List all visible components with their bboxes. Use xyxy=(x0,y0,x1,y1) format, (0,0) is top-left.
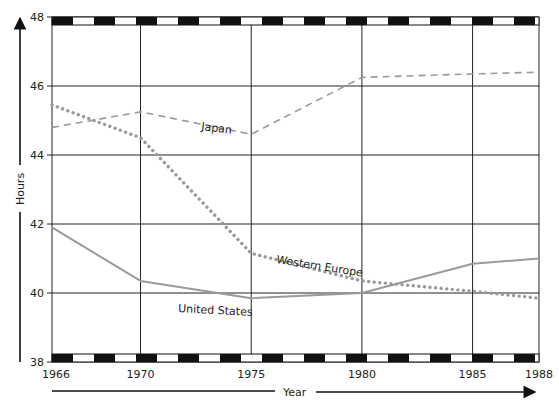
x-tick-label-1970: 1970 xyxy=(127,368,155,381)
scale-bar-top-segment-5 xyxy=(262,17,283,25)
x-axis-title: Year xyxy=(282,386,307,399)
scale-bar-bottom-segment-5 xyxy=(262,354,283,362)
scale-bar-top-segment-2 xyxy=(136,17,157,25)
scale-bar-top-segment-6 xyxy=(304,17,325,25)
scale-bar-bottom-segment-11 xyxy=(514,354,535,362)
scale-bar-bottom-segment-4 xyxy=(220,354,241,362)
y-tick-label-46: 46 xyxy=(30,80,44,93)
scale-bar-bottom-segment-1 xyxy=(94,354,115,362)
series-label-western-europe: Western Europe xyxy=(276,253,364,280)
scale-bar-top-segment-10 xyxy=(472,17,493,25)
scale-bar-top-segment-7 xyxy=(346,17,367,25)
scale-bar-bottom-segment-10 xyxy=(472,354,493,362)
y-tick-label-44: 44 xyxy=(30,149,44,162)
series-line-western-europe xyxy=(52,105,539,298)
axis-scale-bars xyxy=(52,17,539,362)
scale-bar-top xyxy=(52,17,539,25)
scale-bar-bottom xyxy=(52,354,539,362)
scale-bar-bottom-segment-2 xyxy=(136,354,157,362)
y-tick-label-48: 48 xyxy=(30,11,44,24)
scale-bar-top-segment-4 xyxy=(220,17,241,25)
series-label-japan: Japan xyxy=(200,120,233,137)
scale-bar-top-segment-8 xyxy=(388,17,409,25)
series-line-japan xyxy=(52,72,539,134)
scale-bar-bottom-segment-3 xyxy=(178,354,199,362)
grid xyxy=(52,17,539,362)
x-tick-label-1988: 1988 xyxy=(525,368,553,381)
scale-bar-bottom-segment-9 xyxy=(430,354,451,362)
y-tick-label-42: 42 xyxy=(30,218,44,231)
scale-bar-bottom-segment-0 xyxy=(52,354,73,362)
scale-bar-top-segment-1 xyxy=(94,17,115,25)
hours-worked-chart: 384042444648 196619701975198019851988 Ho… xyxy=(0,0,559,408)
scale-bar-top-segment-11 xyxy=(514,17,535,25)
scale-bar-bottom-segment-6 xyxy=(304,354,325,362)
scale-bar-bottom-segment-7 xyxy=(346,354,367,362)
scale-bar-top-segment-9 xyxy=(430,17,451,25)
scale-bar-top-segment-0 xyxy=(52,17,73,25)
x-tick-label-1980: 1980 xyxy=(348,368,376,381)
x-axis-ticks: 196619701975198019851988 xyxy=(42,368,553,381)
x-tick-label-1975: 1975 xyxy=(237,368,265,381)
x-tick-label-1985: 1985 xyxy=(459,368,487,381)
y-tick-label-40: 40 xyxy=(30,287,44,300)
y-axis-title: Hours xyxy=(14,173,27,205)
y-axis-ticks: 384042444648 xyxy=(30,11,52,369)
x-tick-label-1966: 1966 xyxy=(42,368,70,381)
scale-bar-top-segment-3 xyxy=(178,17,199,25)
scale-bar-bottom-segment-8 xyxy=(388,354,409,362)
series-label-united-states: United States xyxy=(178,302,253,319)
